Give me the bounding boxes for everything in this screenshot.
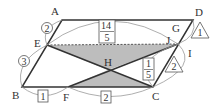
label-e: E: [34, 37, 41, 49]
label-b: B: [12, 89, 19, 101]
ratio-bf: 1: [41, 91, 46, 102]
label-i: I: [188, 47, 192, 59]
label-c: C: [152, 90, 159, 102]
ratio-ae: 2: [45, 23, 50, 34]
ratio-eb: 3: [22, 56, 27, 67]
hc-frac-num: 1: [146, 58, 151, 69]
shaded-triangle-top: [47, 44, 178, 70]
tri-top-num: 1: [198, 27, 203, 38]
label-d: D: [195, 6, 203, 18]
label-j: J: [166, 34, 171, 46]
hc-frac-den: 5: [146, 69, 151, 80]
label-h: H: [104, 56, 112, 68]
ratio-fc: 2: [104, 92, 109, 103]
label-g: G: [172, 22, 180, 34]
top-frac-den: 5: [105, 32, 110, 43]
label-f: F: [63, 91, 69, 103]
top-frac-num: 14: [101, 20, 111, 31]
tri-bottom-num: 2: [172, 61, 177, 72]
shaded-triangle-bottom: [68, 70, 153, 87]
label-a: A: [51, 5, 59, 17]
geometry-diagram: A D E B F C G J I H 2 3 1 2 14 5 1 5 1 2: [0, 0, 218, 110]
